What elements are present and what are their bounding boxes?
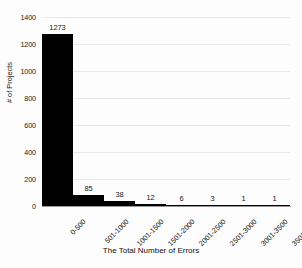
- x-axis-tick-label: 501-1000: [102, 217, 130, 245]
- x-axis-tick-label: 2001-2500: [196, 217, 227, 248]
- gridline: [42, 71, 290, 72]
- x-axis-tick-label: 1501-2000: [165, 217, 196, 248]
- bar-value-label: 12: [146, 193, 154, 202]
- gridline: [42, 44, 290, 45]
- x-axis-tick-label: 0-500: [68, 217, 87, 236]
- gridline: [42, 152, 290, 153]
- bar-value-label: 3: [210, 194, 214, 203]
- y-axis-tick-label: 200: [24, 175, 36, 184]
- bar-value-label: 1273: [49, 23, 65, 32]
- bar: [42, 34, 73, 206]
- gridline: [42, 98, 290, 99]
- y-axis-tick-label: 600: [24, 121, 36, 130]
- y-axis-tick-label: 1000: [20, 67, 36, 76]
- bar-value-label: 1: [272, 194, 276, 203]
- x-axis-tick-label: 2501-3000: [227, 217, 258, 248]
- y-axis-tick-label: 0: [32, 202, 36, 211]
- x-axis-line: [42, 206, 291, 207]
- gridline: [42, 17, 290, 18]
- bar-value-label: 1: [241, 194, 245, 203]
- y-axis-tick-label: 400: [24, 148, 36, 157]
- x-axis-title: The Total Number of Errors: [0, 246, 302, 255]
- bar-value-label: 38: [115, 190, 123, 199]
- x-axis-tick-label: 3001-3500: [258, 217, 289, 248]
- y-axis-tick-label: 1200: [20, 40, 36, 49]
- y-axis-tick-label: 800: [24, 94, 36, 103]
- chart-figure: # of Projects 0200400600800100012001400 …: [0, 0, 302, 268]
- x-axis-tick-label: 3501-4000: [289, 217, 302, 248]
- y-axis-tick-labels: 0200400600800100012001400: [0, 0, 40, 268]
- plot-area: [42, 17, 290, 206]
- x-axis-tick-label: 1001-1500: [134, 217, 165, 248]
- bar: [73, 195, 104, 206]
- gridline: [42, 125, 290, 126]
- y-axis-tick-label: 1400: [20, 13, 36, 22]
- bar-value-label: 6: [179, 194, 183, 203]
- bar-value-label: 85: [84, 184, 92, 193]
- gridline: [42, 179, 290, 180]
